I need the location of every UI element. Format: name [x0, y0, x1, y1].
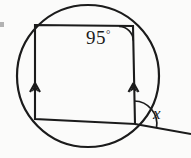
cyclic-quadrilateral	[35, 25, 135, 124]
scan-artifact-speck	[0, 22, 4, 27]
angle-label-95: 95°	[86, 28, 111, 47]
angle-label-x: x	[153, 105, 161, 122]
degree-symbol-icon: °	[106, 28, 111, 40]
geometry-canvas	[0, 0, 191, 158]
tangent-line	[135, 124, 191, 134]
angle-value-95: 95	[86, 27, 106, 48]
geometry-figure: 95° x	[0, 0, 191, 158]
angle-arc-95-icon	[119, 26, 133, 40]
